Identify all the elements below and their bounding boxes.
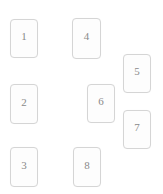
card-5[interactable]: 5: [123, 54, 151, 93]
card-number: 6: [98, 96, 104, 107]
card-7[interactable]: 7: [123, 110, 151, 149]
card-number: 2: [21, 97, 27, 108]
card-1[interactable]: 1: [10, 19, 38, 58]
card-board: 1 2 3 4 5 6 7 8: [0, 0, 163, 194]
card-number: 3: [21, 160, 27, 171]
card-number: 7: [134, 122, 140, 133]
card-2[interactable]: 2: [10, 84, 38, 124]
card-number: 1: [21, 31, 27, 42]
card-number: 4: [84, 31, 90, 42]
card-3[interactable]: 3: [10, 147, 38, 187]
card-number: 8: [84, 160, 90, 171]
card-8[interactable]: 8: [73, 147, 101, 187]
card-4[interactable]: 4: [72, 18, 101, 59]
card-6[interactable]: 6: [87, 84, 115, 123]
card-number: 5: [134, 66, 140, 77]
